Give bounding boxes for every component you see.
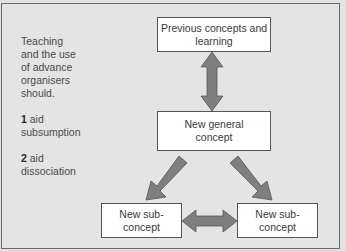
node-label: New sub-concept [250, 208, 305, 234]
arrow-down-right-icon [230, 156, 272, 200]
node-previous-concepts: Previous concepts and learning [157, 17, 271, 52]
node-new-general-concept: New general concept [157, 111, 271, 151]
node-new-sub-concept-right: New sub-concept [237, 203, 318, 238]
bidirectional-arrow-icon [182, 210, 237, 232]
node-label: Previous concepts and learning [158, 22, 270, 48]
bidirectional-arrow-icon [201, 52, 223, 111]
arrow-down-left-icon [146, 156, 187, 200]
node-label: New general concept [179, 118, 249, 144]
diagram-frame: Teaching and the use of advance organise… [1, 3, 340, 249]
node-new-sub-concept-left: New sub-concept [101, 203, 182, 238]
node-label: New sub-concept [114, 208, 169, 234]
